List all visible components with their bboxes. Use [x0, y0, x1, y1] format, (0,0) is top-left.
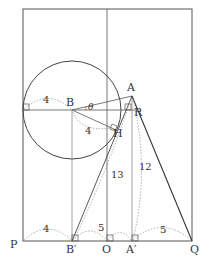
outer-rectangle	[23, 9, 192, 241]
label-P: P	[10, 238, 18, 251]
label-A: A	[126, 81, 136, 94]
measure-AAprime: 12	[139, 161, 152, 172]
label-R: R	[134, 106, 143, 119]
measure-PBprime: 4	[43, 223, 49, 234]
measure-radius-BH: 4	[85, 125, 91, 136]
label-Q: Q	[190, 243, 199, 256]
label-theta: θ	[88, 102, 94, 112]
label-Aprime: A′	[125, 243, 137, 256]
line-BA	[72, 96, 132, 110]
label-Bprime: B′	[66, 243, 77, 256]
line-BH	[72, 110, 116, 130]
geometry-diagram: A B H R P B′ O A′ Q θ 4 4 13 12 4 5 5	[0, 0, 209, 266]
label-B: B	[66, 96, 74, 109]
label-O: O	[102, 243, 111, 256]
right-angle-left	[23, 104, 29, 110]
measure-radius-horizontal: 4	[43, 94, 49, 105]
label-H: H	[113, 127, 123, 140]
measure-ABprime: 13	[111, 169, 124, 180]
measure-AprimeQ: 5	[160, 224, 166, 235]
measure-OAprime: 5	[98, 222, 104, 233]
right-angle-O	[107, 235, 113, 241]
right-angle-Aprime	[132, 235, 138, 241]
measurement-arcs	[24, 98, 191, 240]
